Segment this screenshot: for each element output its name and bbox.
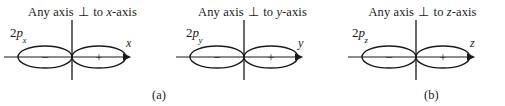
- caption-b: (b): [424, 88, 439, 103]
- panel-2py-axis-label: y: [298, 36, 303, 51]
- positive-lobe-sign: +: [267, 50, 274, 65]
- heading-prefix: Any axis: [28, 5, 74, 19]
- heading-middle: to: [434, 5, 444, 19]
- heading-middle: to: [93, 5, 103, 19]
- heading-suffix: -axis: [452, 5, 477, 19]
- positive-lobe-sign: +: [95, 50, 102, 65]
- orbital-figure: Any axis ⊥ to x-axis 2px − + x An: [0, 0, 505, 106]
- panel-2py: Any axis ⊥ to y-axis 2py − + y: [170, 0, 335, 106]
- negative-lobe-sign: −: [385, 50, 392, 65]
- heading-middle: to: [263, 5, 273, 19]
- negative-lobe-sign: −: [213, 50, 220, 65]
- panel-2pz-orbital-diagram: − +: [340, 18, 505, 84]
- panel-2pz: Any axis ⊥ to z-axis 2pz − + z: [340, 0, 505, 106]
- panel-2px-axis-label: x: [126, 36, 131, 51]
- heading-prefix: Any axis: [198, 5, 244, 19]
- perpendicular-icon: ⊥: [417, 5, 430, 19]
- panel-2pz-axis-label: z: [470, 36, 475, 51]
- perpendicular-icon: ⊥: [247, 5, 260, 19]
- caption-a: (a): [152, 88, 166, 103]
- negative-lobe-sign: −: [41, 50, 48, 65]
- panel-2px: Any axis ⊥ to x-axis 2px − + x: [0, 0, 165, 106]
- panel-2py-orbital-diagram: − +: [170, 18, 335, 84]
- heading-suffix: -axis: [112, 5, 137, 19]
- heading-prefix: Any axis: [368, 5, 414, 19]
- positive-lobe-sign: +: [439, 50, 446, 65]
- heading-suffix: -axis: [282, 5, 307, 19]
- perpendicular-icon: ⊥: [77, 5, 90, 19]
- panel-2px-orbital-diagram: − +: [0, 18, 165, 84]
